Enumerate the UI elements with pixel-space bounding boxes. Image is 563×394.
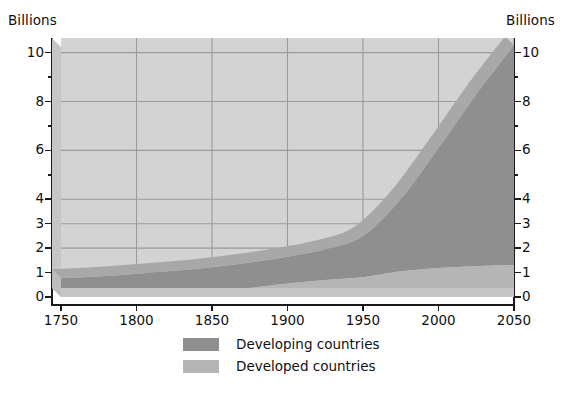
y-tick-label: 4 (35, 193, 44, 207)
legend-swatch-developing (183, 338, 219, 351)
y-tick-mark (45, 101, 52, 103)
x-tick-label: 1900 (270, 312, 304, 328)
y-tick-mark (514, 52, 521, 54)
y-tick-label: 10 (522, 46, 539, 60)
x-tick-mark (362, 304, 364, 311)
y-tick-label: 0 (522, 290, 531, 304)
x-tick-label: 1850 (195, 312, 229, 328)
y-tick-mark (45, 150, 52, 152)
y-tick-label: 6 (522, 144, 531, 158)
y-tick-label: 2 (522, 241, 531, 255)
y-tick-mark (514, 76, 518, 78)
x-tick-label: 2000 (421, 312, 455, 328)
y-tick-mark (514, 247, 521, 249)
x-tick-label: 1950 (346, 312, 380, 328)
legend-label-developed: Developed countries (236, 358, 375, 374)
plot-svg (52, 38, 514, 306)
y-tick-mark (45, 52, 52, 54)
x-tick-label: 1750 (44, 312, 78, 328)
chart-legend: Developing countries Developed countries (183, 333, 379, 377)
y-tick-mark (514, 150, 521, 152)
y-tick-mark (45, 247, 52, 249)
y-tick-label: 8 (35, 95, 44, 109)
y-tick-mark (514, 296, 521, 298)
x-tick-mark (513, 304, 515, 311)
x-tick-mark (211, 304, 213, 311)
left-axis-title: Billions (8, 12, 57, 28)
y-tick-label: 10 (27, 46, 44, 60)
y-tick-mark (514, 125, 518, 127)
y-tick-label: 8 (522, 95, 531, 109)
x-tick-label: 2050 (497, 312, 531, 328)
y-tick-mark (514, 101, 521, 103)
y-tick-mark (514, 198, 521, 200)
legend-item-developing: Developing countries (183, 333, 379, 355)
y-tick-mark (514, 223, 521, 225)
legend-item-developed: Developed countries (183, 355, 379, 377)
legend-swatch-developed (183, 360, 219, 373)
x-tick-mark (136, 304, 138, 311)
plot-area (52, 38, 514, 306)
x-tick-mark (60, 304, 62, 311)
y-tick-mark (45, 223, 52, 225)
y-tick-mark (48, 76, 52, 78)
y-tick-label: 1 (35, 266, 44, 280)
y-tick-mark (48, 174, 52, 176)
legend-label-developing: Developing countries (236, 336, 379, 352)
y-tick-mark (48, 125, 52, 127)
x-tick-mark (438, 304, 440, 311)
y-tick-label: 0 (35, 290, 44, 304)
y-tick-label: 3 (522, 217, 531, 231)
x-tick-label: 1800 (119, 312, 153, 328)
y-tick-mark (45, 272, 52, 274)
right-axis-title: Billions (506, 12, 555, 28)
y-tick-label: 2 (35, 241, 44, 255)
y-tick-label: 3 (35, 217, 44, 231)
y-tick-mark (514, 272, 521, 274)
y-tick-label: 1 (522, 266, 531, 280)
x-tick-mark (287, 304, 289, 311)
y-tick-mark (45, 296, 52, 298)
population-area-chart: Billions Billions 001122334466881010 175… (0, 0, 563, 394)
y-tick-label: 4 (522, 193, 531, 207)
y-tick-mark (45, 198, 52, 200)
y-tick-mark (514, 174, 518, 176)
y-tick-label: 6 (35, 144, 44, 158)
